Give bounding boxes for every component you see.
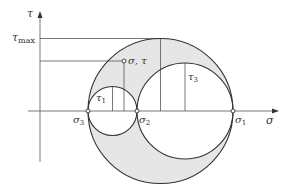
sigma3-point xyxy=(86,109,90,113)
mohr-circle-diagram: τ σ τmax σ, τ τ1 τ3 σ3 σ2 σ1 xyxy=(0,0,290,194)
sigma-axis-arrow-icon xyxy=(272,109,279,114)
tau-max-label: τmax xyxy=(12,31,35,45)
sigma2-point xyxy=(135,109,139,113)
sigma-axis-label: σ xyxy=(266,114,274,127)
sigma1-point xyxy=(231,109,235,113)
tau-axis-arrow-icon xyxy=(38,11,43,18)
sigma3-label: σ3 xyxy=(73,114,84,127)
stress-state-point xyxy=(122,59,126,63)
sigma1-label: σ1 xyxy=(235,114,246,127)
tau-axis-label: τ xyxy=(27,7,34,20)
stress-point-label: σ, τ xyxy=(128,55,147,66)
